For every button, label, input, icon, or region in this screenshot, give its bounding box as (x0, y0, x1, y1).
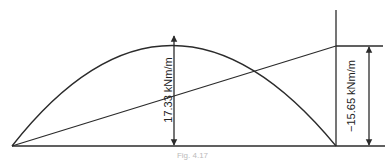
figure-caption: Fig. 4.17 (0, 151, 385, 160)
moment-diagram: 17.33 kNm/m −15.65 kNm/m Fig. 4.17 (0, 0, 385, 164)
end-moment-label: −15.65 kNm/m (345, 51, 357, 141)
midspan-moment-label: 17.33 kNm/m (162, 50, 174, 130)
diagram-drawing (0, 0, 385, 164)
